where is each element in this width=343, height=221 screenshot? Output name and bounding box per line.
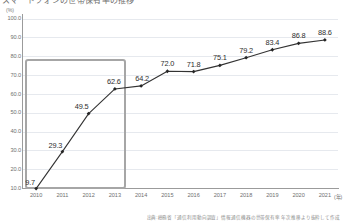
x-axis-tick: 2020 xyxy=(293,192,305,198)
data-point-label: 71.8 xyxy=(187,60,201,69)
chart-figure: スマートフォンの世帯保有率の推移 (%) 100.090.080.070.060… xyxy=(0,0,343,221)
data-point-label: 29.3 xyxy=(49,141,63,150)
data-point-marker xyxy=(270,48,274,52)
source-note: 出典:総務省「通信利用動向調査」情報通信機器の世帯保有率 年次推移より抜粋して作… xyxy=(147,214,340,220)
data-point-label: 86.8 xyxy=(292,31,306,40)
x-axis-tick-labels: 2010201120122013201420152016201720182019… xyxy=(0,192,343,204)
x-axis-tick: 2010 xyxy=(30,192,42,198)
data-point-marker xyxy=(218,63,222,67)
x-axis-unit-label: (年) xyxy=(334,193,342,200)
data-point-marker xyxy=(192,70,196,74)
x-axis-tick: 2015 xyxy=(161,192,173,198)
data-point-label: 75.1 xyxy=(213,53,227,62)
data-point-marker xyxy=(323,38,327,42)
x-axis-tick: 2013 xyxy=(109,192,121,198)
data-point-marker xyxy=(244,56,248,60)
series-line xyxy=(36,40,325,189)
data-point-label: 72.0 xyxy=(161,59,175,68)
x-axis-tick: 2012 xyxy=(83,192,95,198)
data-point-label: 64.2 xyxy=(135,74,149,83)
data-point-label: 9.7 xyxy=(25,178,35,187)
x-axis-tick: 2011 xyxy=(57,192,69,198)
data-point-label: 49.5 xyxy=(75,102,89,111)
data-point-label: 88.6 xyxy=(318,28,332,37)
data-point-marker xyxy=(297,41,301,45)
data-point-label: 83.4 xyxy=(266,38,280,47)
x-axis-tick: 2014 xyxy=(135,192,147,198)
x-axis-tick: 2019 xyxy=(266,192,278,198)
data-point-label: 79.2 xyxy=(239,46,253,55)
x-axis-tick: 2017 xyxy=(214,192,226,198)
x-axis-tick: 2021 xyxy=(319,192,331,198)
x-axis-tick: 2018 xyxy=(240,192,252,198)
data-point-label: 62.6 xyxy=(107,77,121,86)
x-axis-tick: 2016 xyxy=(188,192,200,198)
